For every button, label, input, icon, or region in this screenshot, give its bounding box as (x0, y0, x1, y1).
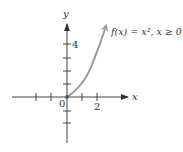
function-label: f(x) = x², x ≥ 0 (110, 26, 182, 37)
origin-point (65, 95, 69, 99)
function-graph: y x 0 2 4 f(x) = x², x ≥ 0 (0, 0, 183, 152)
x-tick-label-2: 2 (94, 101, 100, 112)
x-axis-label: x (132, 91, 138, 102)
origin-label: 0 (59, 98, 65, 109)
function-curve (67, 26, 106, 97)
y-axis-label: y (62, 8, 69, 19)
y-tick-label-4: 4 (72, 39, 78, 50)
